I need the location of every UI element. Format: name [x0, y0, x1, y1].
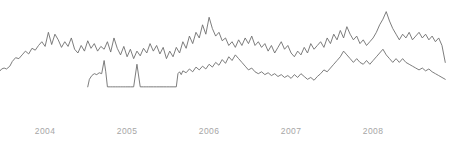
series-line-upper: [0, 12, 445, 71]
plot-area: [0, 0, 451, 153]
plot-svg: [0, 0, 451, 153]
sparkline-chart-figure: 2004 2005 2006 2007 2008: [0, 0, 451, 153]
series-line-lower: [88, 49, 446, 87]
